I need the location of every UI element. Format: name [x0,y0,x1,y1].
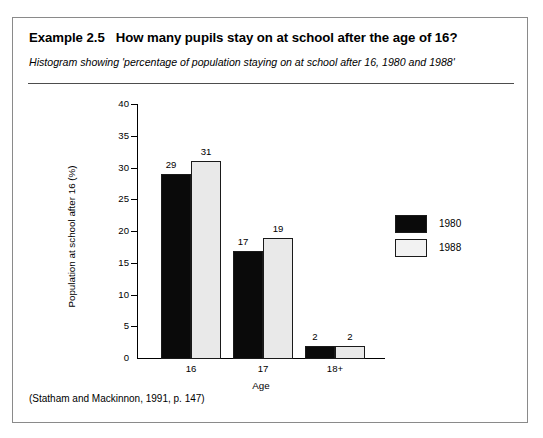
histogram-chart: Population at school after 16 (%) Age 40… [13,18,529,424]
y-tick-label-0: 0 [29,353,129,363]
legend-swatch-1980 [395,215,427,233]
x-tick-label-16: 16 [156,363,226,374]
x-axis-title: Age [137,380,385,391]
y-tick-label-30: 30 [29,163,129,173]
x-tick-label-18plus: 18+ [300,363,370,374]
legend-swatch-1988 [395,239,427,257]
source-citation: (Statham and Mackinnon, 1991, p. 147) [29,393,205,404]
y-tick-40 [131,104,137,105]
bar-value-1980-age-16: 29 [151,159,191,170]
bar-1988-age-18plus [335,346,365,359]
example-box: Example 2.5How many pupils stay on at sc… [12,17,528,423]
legend-item-1980: 1980 [395,215,505,239]
y-tick-25 [131,199,137,200]
y-tick-15 [131,263,137,264]
y-tick-35 [131,136,137,137]
y-tick-label-5: 5 [29,321,129,331]
y-tick-label-35: 35 [29,131,129,141]
y-tick-label-15: 15 [29,258,129,268]
bar-1988-age-17 [263,238,293,359]
screenshot-root: Example 2.5How many pupils stay on at sc… [0,0,543,438]
bar-value-1980-age-18plus: 2 [295,331,335,342]
y-tick-20 [131,231,137,232]
y-tick-10 [131,295,137,296]
bar-value-1980-age-17: 17 [223,236,263,247]
y-tick-label-10: 10 [29,290,129,300]
legend-label-1988: 1988 [439,242,461,253]
y-tick-label-40: 40 [29,99,129,109]
chart-legend: 1980 1988 [395,215,505,263]
bar-value-1988-age-18plus: 2 [330,331,370,342]
bar-1988-age-16 [191,161,221,359]
x-tick-label-17: 17 [228,363,298,374]
y-tick-30 [131,168,137,169]
bar-1980-age-18plus [305,346,335,359]
bar-1980-age-17 [233,251,263,359]
bar-value-1988-age-16: 31 [186,146,226,157]
y-tick-label-25: 25 [29,194,129,204]
legend-item-1988: 1988 [395,239,505,263]
legend-label-1980: 1980 [439,218,461,229]
y-tick-5 [131,326,137,327]
y-tick-label-20: 20 [29,226,129,236]
bar-1980-age-16 [161,174,191,359]
y-axis-line [137,104,138,359]
bar-value-1988-age-17: 19 [258,223,298,234]
